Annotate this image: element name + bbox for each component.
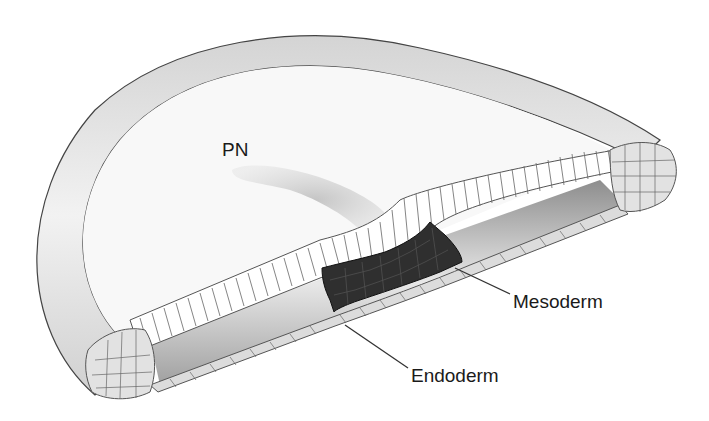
right-edge-cells — [610, 142, 676, 212]
label-mesoderm: Mesoderm — [513, 291, 603, 312]
label-primitive-node: PN — [222, 139, 248, 160]
endoderm-leader-line — [345, 325, 408, 368]
embryo-diagram: PN Mesoderm Endoderm — [0, 0, 709, 421]
label-endoderm: Endoderm — [411, 365, 499, 386]
mesoderm-leader-line — [455, 268, 510, 294]
